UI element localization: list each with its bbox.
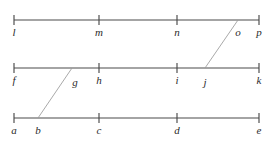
- point-label-h: h: [96, 75, 102, 86]
- point-label-i: i: [175, 75, 178, 86]
- point-label-e: e: [257, 125, 262, 136]
- geometry-figure: lmnopfghijkabcde: [0, 0, 271, 147]
- transversal-b-g: [38, 68, 72, 118]
- point-label-p: p: [256, 27, 262, 38]
- ticks-group: [14, 15, 259, 123]
- point-label-k: k: [257, 75, 262, 86]
- point-label-o: o: [235, 27, 241, 38]
- point-label-j: j: [203, 77, 206, 88]
- point-label-a: a: [11, 125, 17, 136]
- point-label-l: l: [12, 27, 15, 38]
- lines-group: [14, 20, 259, 118]
- point-label-n: n: [174, 27, 180, 38]
- point-label-f: f: [12, 75, 15, 86]
- transversals-group: [38, 20, 238, 118]
- transversal-j-o: [205, 20, 238, 68]
- point-label-d: d: [174, 125, 180, 136]
- point-label-b: b: [35, 125, 41, 136]
- point-label-m: m: [95, 27, 103, 38]
- point-label-c: c: [97, 125, 102, 136]
- point-label-g: g: [72, 77, 78, 88]
